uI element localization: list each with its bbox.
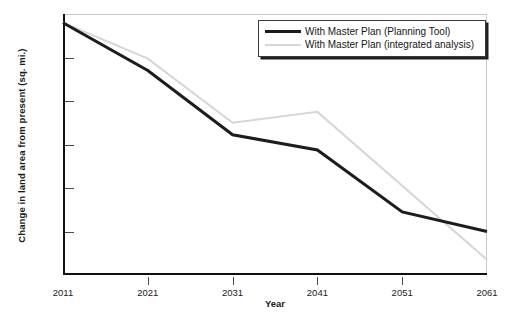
- x-axis-tick: [402, 277, 403, 285]
- chart-legend: With Master Plan (Planning Tool) With Ma…: [258, 20, 486, 57]
- line-chart: Change in land area from present (sq. mi…: [0, 0, 505, 318]
- legend-swatch-planning-tool-icon: [265, 30, 301, 33]
- y-axis-title: Change in land area from present (sq. mi…: [16, 21, 27, 271]
- x-axis-ticks: 201120212031204120512061: [63, 277, 487, 299]
- x-axis-tick: [148, 277, 149, 285]
- x-axis-tick-label: 2051: [372, 287, 432, 298]
- x-axis-tick-label: 2011: [33, 287, 93, 298]
- x-axis-tick-label: 2061: [457, 287, 505, 298]
- x-axis-title: Year: [63, 298, 487, 309]
- legend-item: With Master Plan (Planning Tool): [265, 25, 479, 38]
- legend-swatch-integrated-analysis-icon: [265, 44, 301, 46]
- x-axis-tick: [233, 277, 234, 285]
- x-axis-tick: [317, 277, 318, 285]
- legend-label: With Master Plan (Planning Tool): [305, 25, 450, 38]
- legend-label: With Master Plan (integrated analysis): [305, 38, 474, 51]
- x-axis-tick-label: 2021: [118, 287, 178, 298]
- x-axis-tick-label: 2041: [287, 287, 347, 298]
- legend-item: With Master Plan (integrated analysis): [265, 38, 479, 51]
- x-axis-tick-label: 2031: [203, 287, 263, 298]
